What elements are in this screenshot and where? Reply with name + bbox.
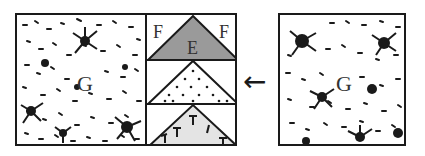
left-arrow-icon: ← bbox=[243, 68, 266, 96]
right-panel: G bbox=[278, 13, 406, 146]
triangle-e-label: E bbox=[187, 39, 198, 57]
right-panel-label: G bbox=[336, 73, 352, 95]
left-panel: G bbox=[15, 13, 147, 146]
middle-column: F F E bbox=[145, 13, 237, 146]
triangle-dots bbox=[148, 61, 237, 104]
corner-label-left: F bbox=[153, 23, 163, 41]
left-panel-label: G bbox=[77, 73, 93, 95]
corner-label-right: F bbox=[219, 23, 229, 41]
